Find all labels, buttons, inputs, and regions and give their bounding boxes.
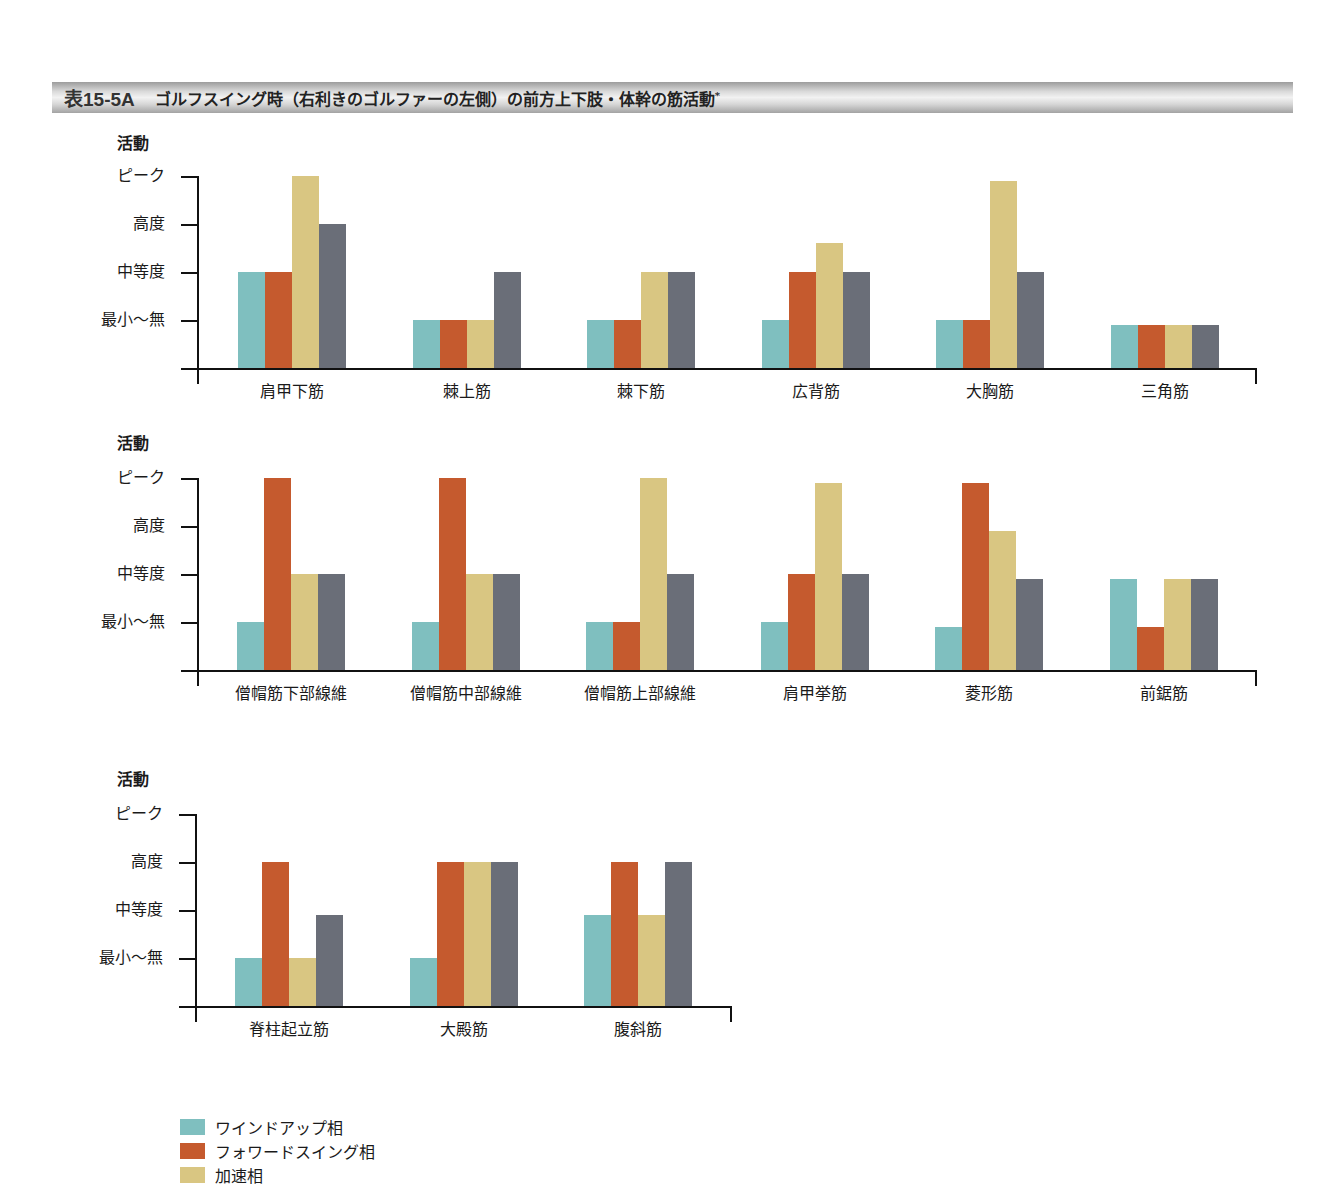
bar-forward_swing	[264, 478, 291, 670]
bar-follow_through	[1191, 579, 1218, 670]
bar-follow_through	[842, 574, 869, 670]
bar-windup	[586, 622, 613, 670]
bar-forward_swing	[1138, 325, 1165, 368]
bar-follow_through	[665, 862, 692, 1006]
y-axis-title: 活動	[117, 130, 149, 154]
bar-acceleration	[816, 243, 843, 368]
y-axis-line	[197, 176, 199, 384]
y-axis-title: 活動	[117, 430, 149, 454]
y-tick	[181, 622, 197, 624]
bar-windup	[237, 622, 264, 670]
bar-forward_swing	[614, 320, 641, 368]
bar-windup	[235, 958, 262, 1006]
y-tick	[181, 176, 197, 178]
bar-follow_through	[493, 574, 520, 670]
y-tick	[181, 478, 197, 480]
bar-acceleration	[292, 176, 319, 368]
y-tick-label: 高度	[45, 517, 165, 535]
y-tick	[181, 224, 197, 226]
bar-forward_swing	[1137, 627, 1164, 670]
bar-acceleration	[291, 574, 318, 670]
x-axis-end-tick	[1255, 368, 1257, 384]
bar-windup	[412, 622, 439, 670]
legend-item-windup: ワインドアップ相	[180, 1115, 375, 1139]
bar-windup	[761, 622, 788, 670]
bar-windup	[584, 915, 611, 1006]
bar-forward_swing	[613, 622, 640, 670]
legend-label: 加速相	[215, 1163, 263, 1187]
bar-acceleration	[289, 958, 316, 1006]
bar-windup	[238, 272, 265, 368]
bar-follow_through	[316, 915, 343, 1006]
y-tick-label: 高度	[45, 215, 165, 233]
y-axis-line	[197, 478, 199, 686]
x-category-label: 前鋸筋	[1077, 680, 1251, 704]
bar-forward_swing	[262, 862, 289, 1006]
bar-windup	[587, 320, 614, 368]
y-tick	[179, 814, 195, 816]
bar-forward_swing	[439, 478, 466, 670]
legend-item-acceleration: 加速相	[180, 1163, 375, 1187]
x-category-label: 大殿筋	[377, 1016, 551, 1040]
bar-forward_swing	[437, 862, 464, 1006]
legend-label: フォワードスイング相	[215, 1139, 375, 1163]
bar-windup	[762, 320, 789, 368]
y-tick	[181, 320, 197, 322]
legend-swatch-windup	[180, 1119, 205, 1135]
x-category-label: 僧帽筋上部線維	[553, 680, 727, 704]
y-tick-label: 最小〜無	[45, 311, 165, 329]
y-tick	[179, 910, 195, 912]
x-category-label: 棘上筋	[380, 378, 554, 402]
bar-acceleration	[638, 915, 665, 1006]
y-tick	[179, 958, 195, 960]
bar-forward_swing	[611, 862, 638, 1006]
bar-forward_swing	[962, 483, 989, 670]
x-category-label: 大胸筋	[903, 378, 1077, 402]
bar-forward_swing	[789, 272, 816, 368]
y-tick	[181, 526, 197, 528]
y-tick-label: ピーク	[45, 469, 165, 487]
y-axis-line	[195, 814, 197, 1022]
x-category-label: 肩甲挙筋	[728, 680, 902, 704]
x-category-label: 僧帽筋中部線維	[379, 680, 553, 704]
bar-acceleration	[640, 478, 667, 670]
x-axis-end-tick	[730, 1006, 732, 1022]
bar-windup	[1110, 579, 1137, 670]
x-category-label: 広背筋	[729, 378, 903, 402]
x-category-label: 僧帽筋下部線維	[204, 680, 378, 704]
y-tick	[179, 862, 195, 864]
y-tick-label: ピーク	[43, 805, 163, 823]
bar-windup	[1111, 325, 1138, 368]
bar-forward_swing	[788, 574, 815, 670]
legend-swatch-forward-swing	[180, 1143, 205, 1159]
x-axis-line	[181, 368, 1257, 370]
legend-item-forward-swing: フォワードスイング相	[180, 1139, 375, 1163]
bar-follow_through	[668, 272, 695, 368]
bar-follow_through	[1016, 579, 1043, 670]
y-tick	[181, 272, 197, 274]
x-axis-line	[179, 1006, 732, 1008]
x-category-label: 肩甲下筋	[205, 378, 379, 402]
bar-follow_through	[318, 574, 345, 670]
y-tick	[181, 574, 197, 576]
x-axis-line	[181, 670, 1257, 672]
y-tick-label: 中等度	[45, 263, 165, 281]
y-tick-label: 高度	[43, 853, 163, 871]
table-title: ゴルフスイング時（右利きのゴルファーの左側）の前方上下肢・体幹の筋活動*	[155, 86, 720, 110]
legend-swatch-acceleration	[180, 1167, 205, 1183]
x-category-label: 三角筋	[1078, 378, 1252, 402]
bar-acceleration	[466, 574, 493, 670]
bar-acceleration	[815, 483, 842, 670]
bar-forward_swing	[963, 320, 990, 368]
bar-windup	[936, 320, 963, 368]
footnote-mark: *	[715, 89, 720, 100]
legend: ワインドアップ相 フォワードスイング相 加速相	[180, 1115, 375, 1187]
table-title-text: ゴルフスイング時（右利きのゴルファーの左側）の前方上下肢・体幹の筋活動	[155, 90, 715, 109]
bar-acceleration	[990, 181, 1017, 368]
x-axis-end-tick	[1255, 670, 1257, 686]
bar-forward_swing	[265, 272, 292, 368]
bar-follow_through	[1192, 325, 1219, 368]
bar-acceleration	[467, 320, 494, 368]
bar-follow_through	[319, 224, 346, 368]
x-category-label: 菱形筋	[902, 680, 1076, 704]
